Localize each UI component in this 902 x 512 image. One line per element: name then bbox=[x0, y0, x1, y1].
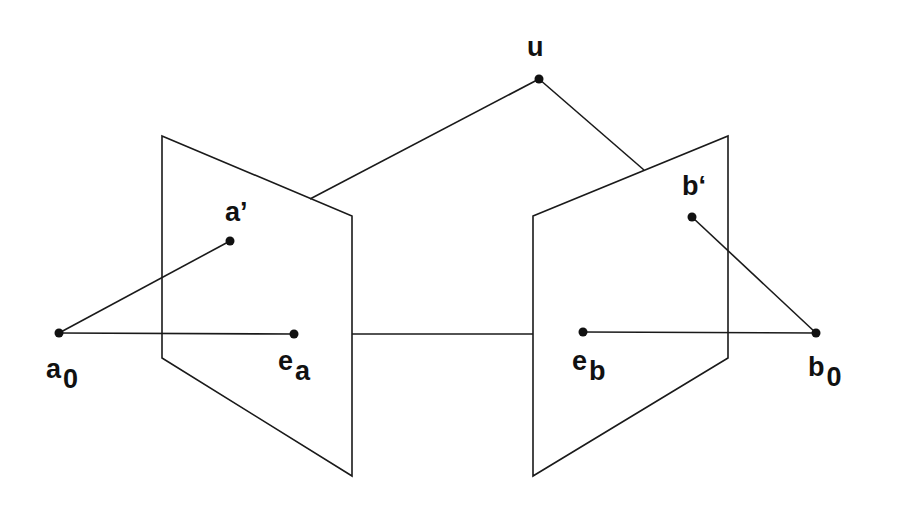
label-u-main: u bbox=[527, 32, 544, 62]
label-b-prime: b‘ bbox=[682, 173, 706, 200]
label-a-prime-main: a’ bbox=[225, 197, 248, 227]
point-e-b bbox=[579, 328, 588, 337]
point-a0 bbox=[55, 329, 64, 338]
ray-b0-to-b-prime bbox=[692, 217, 816, 333]
point-u bbox=[535, 75, 544, 84]
point-e-a bbox=[290, 330, 299, 339]
epipolar-geometry-diagram bbox=[0, 0, 902, 512]
ray-u-to-right-plane bbox=[539, 79, 644, 170]
label-e-b: eb bbox=[572, 348, 606, 375]
ray-u-to-left-plane bbox=[310, 79, 539, 199]
label-a0-main: a bbox=[46, 354, 61, 384]
point-a-prime bbox=[226, 237, 235, 246]
label-b0-main: b bbox=[808, 352, 825, 382]
label-b0-sub: 0 bbox=[827, 362, 842, 392]
label-b-prime-main: b‘ bbox=[682, 171, 706, 201]
label-u: u bbox=[527, 34, 544, 61]
label-e-a-main: e bbox=[278, 346, 293, 376]
point-b-prime bbox=[688, 213, 697, 222]
left-image-plane bbox=[162, 136, 352, 476]
label-a0: a0 bbox=[46, 356, 78, 383]
baseline-a0-to-ea bbox=[59, 333, 294, 334]
baseline-eb-to-b0 bbox=[583, 332, 816, 333]
label-b0: b0 bbox=[808, 354, 842, 381]
point-b0 bbox=[812, 329, 821, 338]
label-a-prime: a’ bbox=[225, 199, 248, 226]
label-e-b-main: e bbox=[572, 346, 587, 376]
ray-a0-to-a-prime bbox=[59, 241, 230, 333]
label-a0-sub: 0 bbox=[63, 364, 78, 394]
label-e-b-sub: b bbox=[589, 356, 606, 386]
label-e-a: ea bbox=[278, 348, 310, 375]
label-e-a-sub: a bbox=[295, 356, 310, 386]
